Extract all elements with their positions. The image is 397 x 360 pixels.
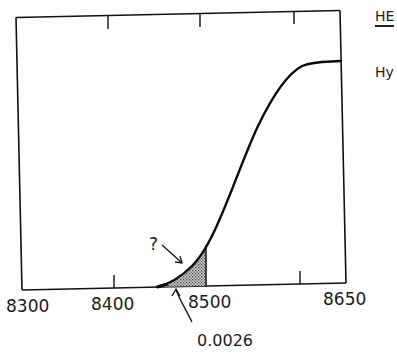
value-annotation: 0.0026 — [197, 331, 253, 350]
question-arrow — [162, 245, 182, 263]
frame-right — [340, 11, 346, 284]
tick-label-8300: 8300 — [6, 296, 49, 316]
shaded-area — [157, 246, 206, 287]
tick-label-8400: 8400 — [91, 294, 134, 314]
plot-frame — [16, 11, 346, 291]
tick-label-8500: 8500 — [188, 292, 231, 312]
frame-left — [16, 18, 22, 291]
frame-top — [16, 11, 340, 18]
data-curve — [157, 61, 340, 287]
side-text-line: Hy — [375, 64, 394, 80]
tick-label-8650: 8650 — [323, 289, 366, 309]
chart: ? 0.0026 8300 8400 8500 8650 — [0, 0, 397, 360]
side-heading: HE — [375, 8, 394, 27]
question-annotation: ? — [149, 234, 158, 254]
